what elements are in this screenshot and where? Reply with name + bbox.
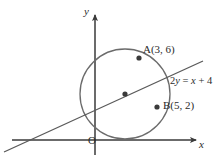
- y-axis-label: y: [84, 6, 89, 17]
- point-marker-b: [154, 104, 159, 109]
- line-equation-label: 2y = x + 4: [170, 76, 212, 87]
- x-axis-label: x: [199, 139, 204, 150]
- eq-equals: =: [180, 75, 191, 86]
- point-label-b: B(5, 2): [163, 100, 194, 111]
- point-marker-a: [136, 55, 141, 60]
- point-marker-centre: [122, 91, 127, 96]
- markers-group: [122, 55, 159, 109]
- point-label-a: A(3, 6): [143, 44, 175, 55]
- eq-constant: + 4: [196, 75, 212, 86]
- origin-label: O: [88, 135, 96, 146]
- figure-canvas: y x O A(3, 6) B(5, 2) 2y = x + 4: [0, 0, 221, 163]
